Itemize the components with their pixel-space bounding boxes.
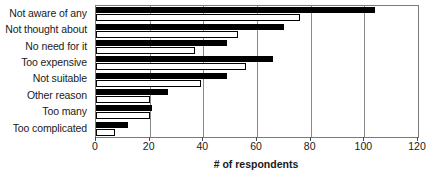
category-label: Not suitable xyxy=(0,71,91,87)
bar-series-2 xyxy=(96,14,300,21)
bar-group xyxy=(96,88,418,104)
bar-series-2 xyxy=(96,96,150,103)
plot-area xyxy=(95,5,419,138)
tick-label: 60 xyxy=(250,141,262,152)
tick-label: 0 xyxy=(92,141,98,152)
bar-series-2 xyxy=(96,80,201,87)
x-axis-title: # of respondents xyxy=(95,158,417,170)
category-label: Not thought about xyxy=(0,21,91,37)
bar-series-1 xyxy=(96,105,152,111)
category-label: Too many xyxy=(0,103,91,119)
bar-series-1 xyxy=(96,56,273,62)
category-axis: Not aware of any Not thought about No ne… xyxy=(0,5,91,136)
tick-label: 80 xyxy=(304,141,316,152)
tick-label: 100 xyxy=(355,141,373,152)
value-axis: 020406080100120 xyxy=(95,137,417,153)
category-label: Too expensive xyxy=(0,54,91,70)
bar-series-1 xyxy=(96,73,227,79)
category-label: No need for it xyxy=(0,38,91,54)
bar-group xyxy=(96,6,418,22)
bar-group xyxy=(96,22,418,38)
bar-group xyxy=(96,121,418,137)
bar-series-2 xyxy=(96,47,195,54)
bar-series-2 xyxy=(96,31,238,38)
bars-layer xyxy=(96,6,418,137)
bar-series-2 xyxy=(96,129,115,136)
tick-label: 40 xyxy=(196,141,208,152)
bar-series-1 xyxy=(96,122,128,128)
bar-group xyxy=(96,104,418,120)
bar-group xyxy=(96,39,418,55)
bar-series-1 xyxy=(96,40,227,46)
category-label: Other reason xyxy=(0,87,91,103)
category-label: Not aware of any xyxy=(0,5,91,21)
bar-series-2 xyxy=(96,63,246,70)
bar-series-2 xyxy=(96,112,150,119)
bar-series-1 xyxy=(96,24,284,30)
bar-chart: Not aware of any Not thought about No ne… xyxy=(0,0,430,181)
bar-group xyxy=(96,72,418,88)
category-label: Too complicated xyxy=(0,120,91,136)
tick-label: 20 xyxy=(143,141,155,152)
bar-series-1 xyxy=(96,7,375,13)
bar-series-1 xyxy=(96,89,168,95)
tick-label: 120 xyxy=(408,141,426,152)
bar-group xyxy=(96,55,418,71)
